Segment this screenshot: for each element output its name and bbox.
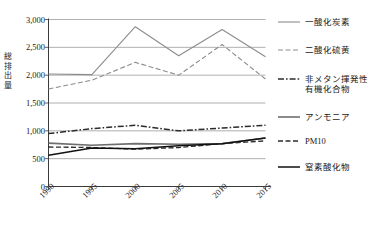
legend-label: 二酸化硫黄 [305,45,350,55]
chart-figure: 総排出量 3,0002,5002,0001,5001,0005000 19901… [0,0,376,226]
legend-label: 窒素酸化物 [305,162,350,172]
series-line [49,125,266,133]
legend-label: 一酸化炭素 [305,17,350,27]
legend-label: アンモニア [305,112,350,122]
legend-label: 非メタン揮発性 有機化合物 [305,74,368,94]
series-line [49,45,266,90]
series-line [49,138,266,155]
series-line [49,27,266,75]
legend-label: PM10 [305,136,326,146]
